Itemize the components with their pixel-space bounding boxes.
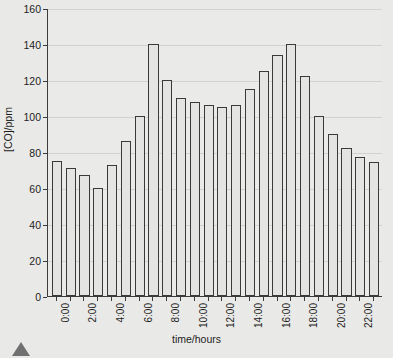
bar xyxy=(107,165,117,296)
x-tick-mark xyxy=(180,297,181,301)
plot-area: 020406080100120140160 0:002:004:006:008:… xyxy=(47,9,382,297)
bar xyxy=(245,89,255,296)
x-tick-mark xyxy=(346,297,347,301)
x-tick-mark xyxy=(359,297,360,301)
x-tick-mark xyxy=(125,297,126,301)
cropped-caption xyxy=(60,0,360,8)
bar xyxy=(328,134,338,296)
y-tick-mark xyxy=(43,189,47,190)
y-tick-label: 20 xyxy=(29,255,41,267)
triangle-marker xyxy=(12,342,30,356)
x-tick-mark xyxy=(83,297,84,301)
bar xyxy=(93,188,103,296)
x-tick-mark xyxy=(304,297,305,301)
x-tick-label: 0:00 xyxy=(60,303,71,322)
bar xyxy=(217,107,227,296)
bar xyxy=(190,102,200,296)
bar xyxy=(314,116,324,296)
y-tick-mark xyxy=(43,153,47,154)
bar xyxy=(369,162,379,296)
bar xyxy=(272,55,282,296)
x-tick-label: 6:00 xyxy=(143,303,154,322)
bar xyxy=(355,157,365,297)
x-tick-mark xyxy=(152,297,153,301)
bar xyxy=(176,98,186,296)
bar xyxy=(341,148,351,296)
x-tick-mark xyxy=(194,297,195,301)
bar xyxy=(259,71,269,296)
x-tick-mark xyxy=(56,297,57,301)
y-tick-mark xyxy=(43,81,47,82)
x-tick-mark xyxy=(235,297,236,301)
y-tick-mark xyxy=(43,117,47,118)
x-tick-label: 20:00 xyxy=(336,303,347,328)
y-tick-label: 140 xyxy=(23,39,41,51)
x-tick-mark xyxy=(221,297,222,301)
y-tick-mark xyxy=(43,297,47,298)
x-tick-mark xyxy=(263,297,264,301)
bar xyxy=(52,161,62,296)
y-tick-mark xyxy=(43,261,47,262)
x-tick-mark xyxy=(318,297,319,301)
bar xyxy=(121,141,131,296)
x-tick-mark xyxy=(290,297,291,301)
x-tick-mark xyxy=(277,297,278,301)
y-tick-label: 60 xyxy=(29,183,41,195)
x-tick-mark xyxy=(208,297,209,301)
bar xyxy=(162,80,172,296)
bar xyxy=(148,44,158,296)
bar xyxy=(204,105,214,296)
x-tick-label: 10:00 xyxy=(198,303,209,328)
y-tick-label: 0 xyxy=(35,291,41,303)
x-tick-mark xyxy=(97,297,98,301)
x-tick-label: 16:00 xyxy=(281,303,292,328)
y-tick-mark xyxy=(43,225,47,226)
y-tick-mark xyxy=(43,45,47,46)
bar xyxy=(231,105,241,296)
y-tick-mark xyxy=(43,9,47,10)
x-tick-label: 14:00 xyxy=(253,303,264,328)
y-axis-title: [CO]/ppm xyxy=(2,107,14,152)
x-tick-mark xyxy=(373,297,374,301)
y-tick-label: 80 xyxy=(29,147,41,159)
x-tick-label: 22:00 xyxy=(363,303,374,328)
bar xyxy=(300,76,310,296)
y-tick-label: 40 xyxy=(29,219,41,231)
bar xyxy=(286,44,296,296)
bar xyxy=(79,175,89,296)
y-tick-label: 100 xyxy=(23,111,41,123)
x-tick-mark xyxy=(249,297,250,301)
x-tick-label: 8:00 xyxy=(170,303,181,322)
bar xyxy=(135,116,145,296)
bar xyxy=(66,168,76,296)
x-tick-label: 4:00 xyxy=(115,303,126,322)
y-tick-label: 160 xyxy=(23,3,41,15)
y-axis-line xyxy=(47,9,48,297)
x-tick-label: 12:00 xyxy=(225,303,236,328)
x-tick-mark xyxy=(111,297,112,301)
x-tick-mark xyxy=(166,297,167,301)
x-tick-mark xyxy=(70,297,71,301)
x-tick-mark xyxy=(332,297,333,301)
chart-figure: 020406080100120140160 0:002:004:006:008:… xyxy=(0,0,393,358)
x-tick-label: 18:00 xyxy=(308,303,319,328)
x-axis-title: time/hours xyxy=(0,333,393,345)
x-tick-mark xyxy=(139,297,140,301)
bar-series xyxy=(48,9,382,296)
y-tick-label: 120 xyxy=(23,75,41,87)
x-tick-label: 2:00 xyxy=(87,303,98,322)
